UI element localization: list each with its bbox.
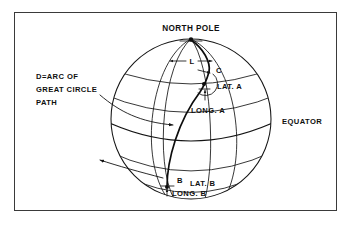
arc-legend-leaders <box>100 95 173 178</box>
label-longitude-difference: L <box>189 57 194 66</box>
label-arc-legend-line1: D=ARC OF <box>36 72 78 81</box>
figure-page: L C LAT. A LONG. A B LAT. B LONG. B EQUA… <box>0 0 353 225</box>
label-north-pole: NORTH POLE <box>162 24 220 33</box>
label-equator: EQUATOR <box>282 117 322 126</box>
label-arc-legend-line3: PATH <box>36 98 57 107</box>
label-lat-a: LAT. A <box>217 82 242 91</box>
label-course-angle-c: C <box>216 66 222 75</box>
label-lat-b: LAT. B <box>190 179 216 188</box>
latitude-lines <box>103 67 279 193</box>
label-point-b: B <box>177 176 183 185</box>
great-circle-diagram: L C LAT. A LONG. A B LAT. B LONG. B EQUA… <box>0 0 353 225</box>
label-long-a: LONG. A <box>191 106 225 115</box>
label-long-b: LONG. B <box>172 189 207 198</box>
label-arc-legend-line2: GREAT CIRCLE <box>36 85 97 94</box>
